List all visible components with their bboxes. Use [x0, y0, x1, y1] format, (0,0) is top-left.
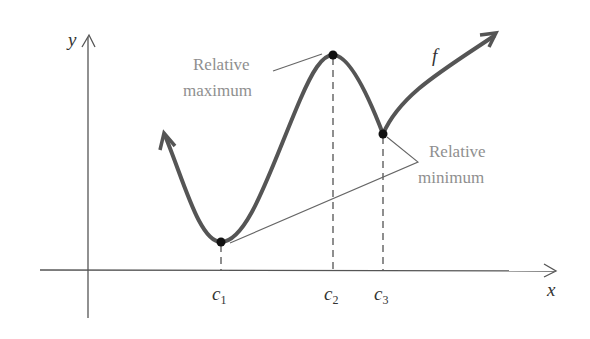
- extrema-diagram: x y Relative maximum Relative minimum f …: [0, 0, 590, 339]
- x-axis: [40, 270, 554, 271]
- tick-c1: c1: [212, 283, 226, 307]
- point-c2-max: [329, 51, 338, 60]
- max-label-line2: maximum: [183, 81, 252, 100]
- tick-c3: c3: [374, 283, 388, 307]
- x-axis-label: x: [546, 279, 556, 300]
- function-label: f: [432, 45, 440, 66]
- y-axis-label: y: [66, 29, 77, 50]
- min-label-line1: Relative: [429, 142, 486, 161]
- point-c1-min: [217, 238, 226, 247]
- tick-c2: c2: [324, 283, 338, 307]
- min-label-line2: minimum: [418, 168, 484, 187]
- max-label-line1: Relative: [193, 55, 250, 74]
- min-leaders: [230, 137, 418, 243]
- point-c3-min: [379, 130, 388, 139]
